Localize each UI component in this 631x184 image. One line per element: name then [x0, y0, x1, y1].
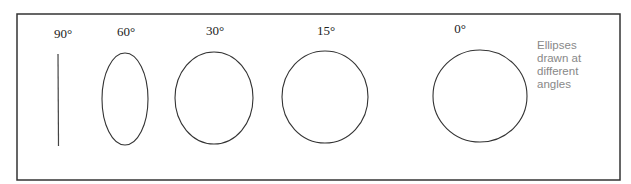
caption-line-3: different — [537, 65, 607, 78]
label-15: 15° — [317, 23, 335, 38]
label-60: 60° — [117, 24, 135, 39]
frame-border — [17, 14, 620, 180]
label-0: 0° — [454, 21, 466, 36]
ellipse-15 — [282, 51, 368, 143]
label-90: 90° — [54, 26, 72, 41]
ellipse-60 — [102, 53, 148, 145]
ellipse-90-line — [58, 54, 59, 146]
caption-note: Ellipses drawn at different angles — [537, 39, 607, 91]
caption-line-4: angles — [537, 78, 607, 91]
caption-line-1: Ellipses — [537, 39, 607, 52]
caption-line-2: drawn at — [537, 52, 607, 65]
ellipse-30 — [175, 52, 253, 144]
ellipse-0 — [433, 50, 527, 142]
label-30: 30° — [206, 23, 224, 38]
ellipse-diagram: 90° 60° 30° 15° 0° — [0, 0, 631, 184]
